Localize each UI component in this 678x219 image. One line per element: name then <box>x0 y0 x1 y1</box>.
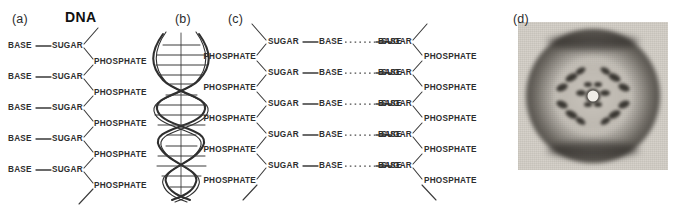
panel-c-label: (c) <box>228 12 243 26</box>
panel-a-phosphate-4: PHOSPHATE <box>94 150 147 159</box>
panel-a-title: DNA <box>65 9 97 25</box>
panel-a-sugar-5: SUGAR <box>52 165 83 174</box>
panel-c: (c) <box>222 0 502 219</box>
panel-c-base-left-2: BASE <box>319 68 343 77</box>
panel-c-sugar-right-3: SUGAR <box>381 99 412 108</box>
panel-a-sugar-2: SUGAR <box>52 72 83 81</box>
panel-c-phosphate-left-1: PHOSPHATE <box>203 52 256 61</box>
photo-spot <box>600 90 610 96</box>
xray-diffraction-photograph <box>518 22 668 170</box>
panel-a-sugar-3: SUGAR <box>52 103 83 112</box>
panel-c-phosphate-left-2: PHOSPHATE <box>203 83 256 92</box>
panel-c-phosphate-left-3: PHOSPHATE <box>203 114 256 123</box>
panel-a-phosphate-2: PHOSPHATE <box>94 88 147 97</box>
panel-a-base-2: BASE <box>8 72 32 81</box>
panel-c-sugar-left-3: SUGAR <box>268 99 299 108</box>
panel-a-sugar-1: SUGAR <box>52 41 83 50</box>
panel-a-base-1: BASE <box>8 41 32 50</box>
panel-a-base-5: BASE <box>8 165 32 174</box>
photo-spot <box>584 102 592 107</box>
panel-a-label: (a) <box>12 12 28 26</box>
panel-c-phosphate-right-4: PHOSPHATE <box>424 145 477 154</box>
panel-c-sugar-left-4: SUGAR <box>268 130 299 139</box>
panel-a: (a) DNA BASE SUGAR PHOSPHATE BASE SUGAR … <box>0 0 135 219</box>
panel-b-label: (b) <box>175 12 191 26</box>
panel-a-phosphate-3: PHOSPHATE <box>94 119 147 128</box>
panel-c-phosphate-left-5: PHOSPHATE <box>203 176 256 185</box>
photo-beam-stop <box>588 91 599 102</box>
panel-c-sugar-left-5: SUGAR <box>268 161 299 170</box>
panel-c-sugar-right-1: SUGAR <box>381 37 412 46</box>
panel-c-base-left-5: BASE <box>319 161 343 170</box>
photo-bottom-arc <box>547 142 639 158</box>
panel-c-phosphate-right-1: PHOSPHATE <box>424 52 477 61</box>
panel-c-sugar-left-2: SUGAR <box>268 68 299 77</box>
photo-spot <box>584 82 592 87</box>
panel-c-base-left-3: BASE <box>319 99 343 108</box>
panel-c-phosphate-right-3: PHOSPHATE <box>424 114 477 123</box>
panel-c-phosphate-left-4: PHOSPHATE <box>203 145 256 154</box>
panel-c-sugar-left-1: SUGAR <box>268 37 299 46</box>
panel-c-base-left-4: BASE <box>319 130 343 139</box>
dna-structure-figure: (a) DNA BASE SUGAR PHOSPHATE BASE SUGAR … <box>0 0 678 219</box>
photo-spot <box>576 90 586 96</box>
panel-d-label: (d) <box>513 12 529 26</box>
panel-b: (b) <box>140 0 220 219</box>
panel-c-sugar-right-5: SUGAR <box>381 161 412 170</box>
photo-spot <box>594 102 602 107</box>
panel-a-phosphate-5: PHOSPHATE <box>94 181 147 190</box>
panel-c-phosphate-right-5: PHOSPHATE <box>424 176 477 185</box>
panel-a-base-3: BASE <box>8 103 32 112</box>
panel-a-phosphate-1: PHOSPHATE <box>94 57 147 66</box>
photo-spot <box>594 82 602 87</box>
panel-c-sugar-right-4: SUGAR <box>381 130 412 139</box>
panel-a-sugar-4: SUGAR <box>52 134 83 143</box>
photo-top-arc <box>547 34 639 50</box>
panel-c-sugar-right-2: SUGAR <box>381 68 412 77</box>
panel-a-base-4: BASE <box>8 134 32 143</box>
panel-c-base-left-1: BASE <box>319 37 343 46</box>
panel-c-phosphate-right-2: PHOSPHATE <box>424 83 477 92</box>
